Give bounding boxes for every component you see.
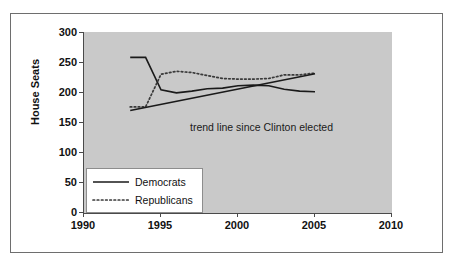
series-line-democrats: [130, 57, 315, 93]
x-tick-mark-2005: [314, 213, 315, 217]
x-tick-label-1995: 1995: [138, 219, 182, 231]
chart-title: [11, 1, 444, 11]
x-tick-label-2010: 2010: [369, 219, 413, 231]
legend-swatch-solid-icon: [91, 177, 131, 187]
legend-swatch-dotted-icon: [91, 195, 131, 205]
legend-label-democrats: Democrats: [135, 176, 186, 188]
x-tick-mark-2010: [391, 213, 392, 217]
x-tick-mark-1995: [160, 213, 161, 217]
trend-annotation-label: trend line since Clinton elected: [190, 121, 333, 133]
x-tick-label-1990: 1990: [61, 219, 105, 231]
x-tick-mark-1990: [83, 213, 84, 217]
y-tick-label-300: 300: [43, 27, 77, 38]
y-tick-label-200: 200: [43, 87, 77, 98]
y-tick-label-50: 50: [43, 177, 77, 188]
y-axis-title: House Seats: [29, 32, 41, 152]
x-tick-label-2000: 2000: [215, 219, 259, 231]
x-tick-label-2005: 2005: [292, 219, 336, 231]
x-tick-mark-2000: [237, 213, 238, 217]
chart-legend: Democrats Republicans: [86, 168, 203, 213]
legend-label-republicans: Republicans: [135, 194, 193, 206]
y-axis-tick-labels: 300 250 200 150 100 50 0: [37, 14, 77, 254]
y-tick-label-150: 150: [43, 117, 77, 128]
legend-item-republicans: Republicans: [87, 191, 202, 209]
chart-container: 300 250 200 150 100 50 0 House Seats tre…: [10, 13, 443, 253]
plot-area: trend line since Clinton elected Democra…: [83, 32, 392, 214]
y-tick-label-250: 250: [43, 57, 77, 68]
legend-item-democrats: Democrats: [87, 173, 202, 191]
y-tick-label-100: 100: [43, 147, 77, 158]
y-tick-label-0: 0: [43, 207, 77, 218]
